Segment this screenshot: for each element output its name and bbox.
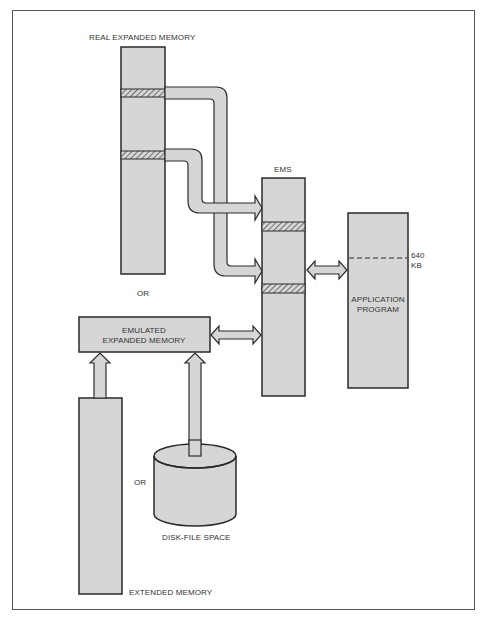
label-application-line2: PROGRAM: [357, 305, 399, 314]
extended-memory-block: [79, 398, 122, 594]
label-disk-file-space: DISK-FILE SPACE: [162, 533, 230, 542]
ems-block: [262, 178, 305, 396]
emulated-ems-double-arrow: [211, 326, 261, 344]
ems-diagram: REAL EXPANDED MEMORY EMS OR EMULATED EXP…: [0, 0, 483, 633]
label-emulated-line2: EXPANDED MEMORY: [103, 336, 187, 345]
label-or-2: OR: [134, 478, 146, 487]
extended-up-arrow: [90, 353, 110, 398]
label-640: 640: [411, 251, 425, 260]
page-map-arrow-upper: [165, 87, 262, 283]
label-extended-memory: EXTENDED MEMORY: [129, 588, 213, 597]
label-application-line1: APPLICATION: [351, 295, 405, 304]
label-kb: KB: [411, 261, 422, 270]
label-or-1: OR: [137, 289, 149, 298]
label-emulated-line1: EMULATED: [122, 326, 166, 335]
label-real-expanded-memory: REAL EXPANDED MEMORY: [89, 33, 196, 42]
label-ems: EMS: [274, 165, 292, 174]
ems-application-double-arrow: [307, 261, 347, 279]
real-expanded-memory-block: [121, 47, 165, 274]
disk-cylinder-icon: [154, 440, 236, 526]
